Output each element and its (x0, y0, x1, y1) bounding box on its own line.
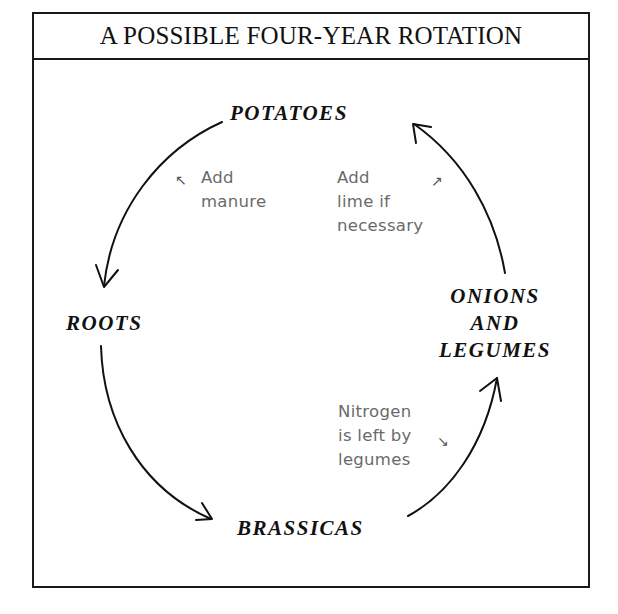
note-nitrogen-line-1: Nitrogen (338, 400, 412, 424)
arrowhead-onions-icon (480, 378, 501, 401)
note-manure-arrow-icon: ↖ (175, 173, 187, 187)
crop-onions-legumes: ONIONS AND LEGUMES (425, 283, 565, 364)
crop-onions-line-2: AND (425, 310, 565, 337)
note-manure: Add manure (201, 166, 266, 214)
arrow-onions-to-potatoes (414, 124, 505, 273)
note-lime-line-3: necessary (337, 214, 423, 238)
arrowhead-potatoes-icon (413, 124, 431, 143)
arrow-roots-to-brassicas (101, 346, 211, 519)
note-nitrogen: Nitrogen is left by legumes (338, 400, 412, 472)
note-lime-line-1: Add (337, 166, 423, 190)
crop-onions-line-1: ONIONS (425, 283, 565, 310)
note-lime-arrow-icon: ↗ (431, 174, 443, 188)
note-manure-line-2: manure (201, 190, 266, 214)
note-lime: Add lime if necessary (337, 166, 423, 238)
note-nitrogen-line-2: is left by (338, 424, 412, 448)
crop-potatoes: POTATOES (230, 100, 348, 127)
crop-onions-line-3: LEGUMES (425, 337, 565, 364)
note-manure-line-1: Add (201, 166, 266, 190)
arrow-brassicas-to-onions (408, 378, 497, 516)
crop-roots: ROOTS (66, 310, 142, 337)
note-nitrogen-arrow-icon: ↘ (437, 434, 449, 448)
note-nitrogen-line-3: legumes (338, 448, 412, 472)
note-lime-line-2: lime if (337, 190, 423, 214)
crop-brassicas: BRASSICAS (237, 515, 364, 542)
